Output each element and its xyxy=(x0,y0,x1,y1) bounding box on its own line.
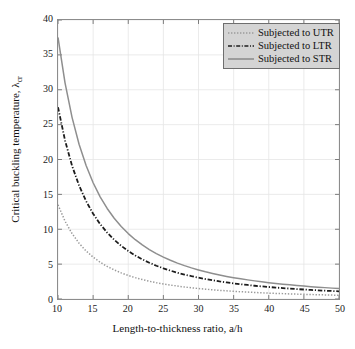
curve-subjected-to-ltr xyxy=(58,107,339,291)
y-tick-label: 5 xyxy=(48,259,53,270)
curve-subjected-to-str xyxy=(58,37,339,288)
y-tick-label: 25 xyxy=(43,118,53,129)
legend-item-utr: Subjected to UTR xyxy=(227,26,336,39)
legend-item-ltr: Subjected to LTR xyxy=(227,39,336,52)
legend-label-ltr: Subjected to LTR xyxy=(258,40,332,52)
x-tick-label: 35 xyxy=(222,303,246,314)
chart-figure: 0510152025303540 101520253035404550 Crit… xyxy=(0,0,355,349)
legend-line-sample-utr xyxy=(227,28,255,38)
y-axis-title: Critical buckling temperature, λcr xyxy=(6,0,26,300)
x-tick-label: 10 xyxy=(45,303,69,314)
legend-label-utr: Subjected to UTR xyxy=(258,27,334,39)
x-axis-title: Length-to-thickness ratio, a/h xyxy=(0,322,355,334)
legend-item-str: Subjected to STR xyxy=(227,52,336,65)
x-tick-label: 40 xyxy=(257,303,281,314)
x-tick-label: 20 xyxy=(116,303,140,314)
x-tick-label: 30 xyxy=(187,303,211,314)
legend-line-sample-ltr xyxy=(227,41,255,51)
y-axis-title-text: Critical buckling temperature, λcr xyxy=(8,77,23,223)
y-tick-label: 30 xyxy=(43,83,53,94)
x-tick-label: 15 xyxy=(80,303,104,314)
x-tick-label: 25 xyxy=(151,303,175,314)
y-tick-label: 20 xyxy=(43,154,53,165)
y-tick-label: 15 xyxy=(43,189,53,200)
curve-subjected-to-utr xyxy=(58,205,339,295)
x-tick-label: 45 xyxy=(293,303,317,314)
y-tick-label: 35 xyxy=(43,48,53,59)
legend-label-str: Subjected to STR xyxy=(258,53,332,65)
legend-line-sample-str xyxy=(227,54,255,64)
chart-legend: Subjected to UTR Subjected to LTR Subjec… xyxy=(223,23,340,69)
y-tick-label: 40 xyxy=(43,13,53,24)
x-tick-label: 50 xyxy=(328,303,352,314)
y-tick-label: 10 xyxy=(43,224,53,235)
